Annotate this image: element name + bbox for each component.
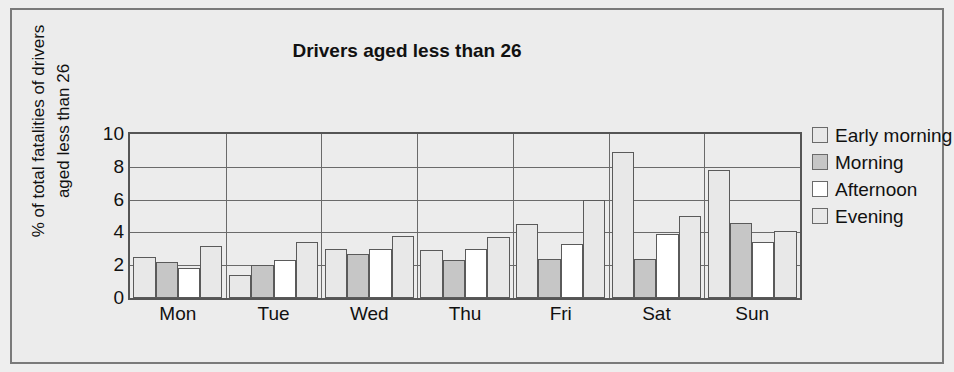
gridline-horizontal (130, 200, 800, 201)
figure-container: Drivers aged less than 26 % of total fat… (0, 0, 954, 372)
y-axis-label-line-2: aged less than 26 (51, 0, 76, 281)
figure-frame: Drivers aged less than 26 % of total fat… (10, 8, 944, 364)
bar-mon-evening (200, 246, 222, 298)
legend-swatch-icon (812, 208, 828, 224)
x-axis-tick-label: Tue (258, 303, 290, 325)
bar-mon-afternoon (178, 268, 200, 298)
bar-sun-afternoon (752, 242, 774, 298)
bar-wed-morning (347, 254, 369, 298)
bar-fri-early-morning (516, 224, 538, 298)
bar-mon-morning (156, 262, 178, 298)
legend-item-morning: Morning (812, 151, 954, 174)
legend-swatch-icon (812, 181, 828, 197)
bar-thu-early-morning (420, 250, 442, 298)
gridline-vertical (704, 134, 705, 298)
x-axis-tick-label: Thu (449, 303, 482, 325)
legend-item-evening: Evening (812, 205, 954, 228)
y-axis-tick-label: 2 (113, 254, 124, 276)
gridline-vertical (226, 134, 227, 298)
y-axis-label: % of total fatalities of drivers aged le… (26, 0, 78, 281)
bar-wed-afternoon (369, 249, 391, 298)
gridline-vertical (609, 134, 610, 298)
x-axis-tick-label: Sat (642, 303, 671, 325)
bar-sat-evening (679, 216, 701, 298)
bar-wed-early-morning (325, 249, 347, 298)
bar-tue-early-morning (229, 275, 251, 298)
bar-sun-evening (774, 231, 796, 298)
bar-thu-afternoon (465, 249, 487, 298)
bar-fri-afternoon (561, 244, 583, 298)
bar-sat-morning (634, 259, 656, 298)
bar-thu-evening (487, 237, 509, 298)
legend-label: Afternoon (835, 178, 917, 201)
bar-sat-afternoon (656, 234, 678, 298)
bar-tue-afternoon (274, 260, 296, 298)
gridline-horizontal (130, 167, 800, 168)
gridline-vertical (321, 134, 322, 298)
legend-item-afternoon: Afternoon (812, 178, 954, 201)
chart-title: Drivers aged less than 26 (12, 40, 802, 62)
plot-area: 0246810MonTueWedThuFriSatSun (128, 132, 802, 300)
bar-tue-evening (296, 242, 318, 298)
y-axis-label-line-1: % of total fatalities of drivers (26, 0, 51, 281)
x-axis-tick-label: Wed (350, 303, 389, 325)
bar-fri-evening (583, 200, 605, 298)
bar-tue-morning (251, 265, 273, 298)
x-axis-tick-label: Mon (159, 303, 196, 325)
y-axis-tick-label: 4 (113, 221, 124, 243)
y-axis-tick-label: 6 (113, 189, 124, 211)
gridline-vertical (513, 134, 514, 298)
legend-label: Evening (835, 205, 904, 228)
bar-sat-early-morning (612, 152, 634, 298)
gridline-vertical (417, 134, 418, 298)
legend-swatch-icon (812, 154, 828, 170)
y-axis-tick-label: 0 (113, 287, 124, 309)
bar-mon-early-morning (133, 257, 155, 298)
x-axis-tick-label: Fri (550, 303, 572, 325)
bar-wed-evening (392, 236, 414, 298)
bar-fri-morning (538, 259, 560, 298)
legend-swatch-icon (812, 127, 828, 143)
bar-sun-early-morning (708, 170, 730, 298)
bar-thu-morning (443, 260, 465, 298)
y-axis-tick-label: 8 (113, 156, 124, 178)
y-axis-tick-label: 10 (103, 123, 124, 145)
legend-item-early-morning: Early morning (812, 124, 954, 147)
x-axis-tick-label: Sun (735, 303, 769, 325)
bar-sun-morning (730, 223, 752, 298)
chart-legend: Early morningMorningAfternoonEvening (812, 124, 954, 232)
legend-label: Morning (835, 151, 904, 174)
legend-label: Early morning (835, 124, 952, 147)
